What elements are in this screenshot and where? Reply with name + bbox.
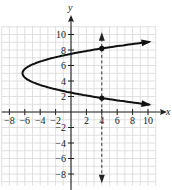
y-tick-label: −2 — [55, 122, 66, 133]
y-tick-label: −8 — [55, 169, 66, 180]
x-tick-label: 10 — [143, 115, 153, 126]
x-tick-label: 2 — [84, 115, 89, 126]
x-tick-label: −8 — [4, 115, 15, 126]
intersection-point — [99, 95, 104, 100]
y-tick-label: 4 — [61, 76, 66, 87]
grid — [2, 27, 156, 186]
x-tick-label: 8 — [130, 115, 135, 126]
x-tick-label: −6 — [19, 115, 30, 126]
y-tick-label: 10 — [56, 29, 66, 40]
x-tick-label: 6 — [115, 115, 120, 126]
y-tick-label: 8 — [61, 45, 66, 56]
y-tick-label: 2 — [61, 91, 66, 102]
y-axis-label: y — [67, 2, 73, 13]
y-tick-label: −4 — [55, 138, 66, 149]
y-tick-label: −6 — [55, 153, 66, 164]
intersection-point — [99, 46, 104, 51]
graph: −8−6−4−2246810−8−6−4−2246810 x y — [0, 0, 172, 190]
y-tick-label: 6 — [61, 60, 66, 71]
x-tick-label: −4 — [35, 115, 46, 126]
x-axis-label: x — [165, 106, 171, 117]
